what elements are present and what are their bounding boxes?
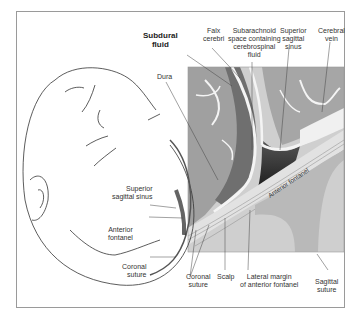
label-subarachnoid-space: Subarachnoidspace containing cerebrospin… [228,27,281,59]
infant-head-drawing [23,68,194,286]
label-subdural-fluid: Subduralfluid [143,31,178,49]
magnified-cross-section: Anterior fontanel [188,67,344,252]
label-coronal-suture-head: Coronalsuture [122,263,147,279]
label-anterior-fontanel-head: Anteriorfontanel [108,226,133,242]
label-cerebral-vein: Cerebralvein [318,27,345,43]
label-superior-sagittal-sinus-head: Superiorsagittal sinus [112,185,152,201]
label-superior-sagittal-sinus-top: Superiorsagittal sinus [280,27,306,51]
label-sagittal-suture: Sagittalsuture [315,278,338,294]
label-falx-cerebri: Falxcerebri [203,27,224,43]
label-scalp: Scalp [217,273,235,281]
label-dura: Dura [157,73,172,81]
fontanel-shading [176,190,184,235]
label-coronal-suture-bottom: Coronalsuture [186,273,211,289]
label-lateral-margin: Lateral marginof anterior fontanel [240,273,298,289]
